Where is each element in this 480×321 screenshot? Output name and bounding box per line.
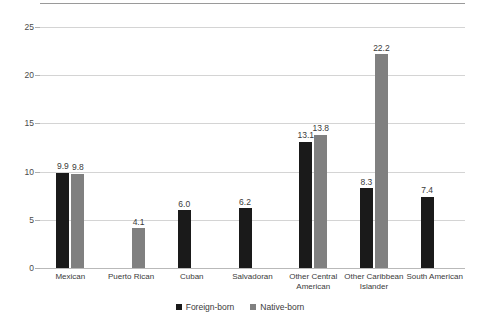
category-label: Mexican: [40, 272, 101, 282]
y-axis-tick-label: 10: [4, 168, 34, 177]
legend-label: Foreign-born: [186, 303, 235, 312]
bar-value-label: 7.4: [414, 186, 440, 195]
bars-layer: 9.99.84.16.06.213.113.88.322.27.4: [40, 27, 465, 268]
chart-legend: Foreign-bornNative-born: [0, 303, 480, 312]
legend-label: Native-born: [260, 303, 304, 312]
bar-group: 4.1: [117, 27, 145, 268]
bar-value-label: 6.0: [171, 200, 197, 209]
category-label: Other Caribbean Islander: [344, 272, 405, 292]
bar-value-label: 9.8: [65, 163, 91, 172]
category-label: Cuban: [161, 272, 222, 282]
bar-foreign-born[interactable]: [239, 208, 252, 268]
y-axis-tick-mark: [35, 268, 40, 269]
y-axis-tick-label: 20: [4, 71, 34, 80]
bar-foreign-born[interactable]: [360, 188, 373, 268]
category-label: South American: [404, 272, 465, 282]
category-label: Puerto Rican: [101, 272, 162, 282]
y-axis-tick-label: 25: [4, 23, 34, 32]
bar-native-born[interactable]: [375, 54, 388, 268]
bar-group: 8.322.2: [360, 27, 388, 268]
legend-swatch-icon: [176, 304, 182, 310]
bar-foreign-born[interactable]: [178, 210, 191, 268]
category-label: Other Central American: [283, 272, 344, 292]
bar-native-born[interactable]: [71, 174, 84, 268]
legend-item[interactable]: Native-born: [250, 303, 304, 312]
y-axis-tick-label: 5: [4, 216, 34, 225]
legend-item[interactable]: Foreign-born: [176, 303, 235, 312]
axis-baseline: [40, 268, 465, 269]
y-axis-tick-label: 15: [4, 119, 34, 128]
bar-native-born[interactable]: [314, 135, 327, 268]
bar-group: 6.0: [178, 27, 206, 268]
bar-native-born[interactable]: [132, 228, 145, 268]
bar-value-label: 22.2: [368, 44, 394, 53]
bar-value-label: 13.8: [308, 124, 334, 133]
bar-group: 9.99.8: [56, 27, 84, 268]
legend-swatch-icon: [250, 304, 256, 310]
bar-group: 7.4: [421, 27, 449, 268]
bar-foreign-born[interactable]: [421, 197, 434, 268]
category-label: Salvadoran: [222, 272, 283, 282]
bar-value-label: 4.1: [126, 218, 152, 227]
bar-group: 6.2: [239, 27, 267, 268]
bar-foreign-born[interactable]: [299, 142, 312, 268]
chart-top-border: [40, 3, 465, 4]
y-axis-tick-label: 0: [4, 264, 34, 273]
bar-foreign-born[interactable]: [56, 173, 69, 268]
x-axis-category-labels: MexicanPuerto RicanCubanSalvadoranOther …: [40, 272, 465, 302]
bar-group: 13.113.8: [299, 27, 327, 268]
bar-value-label: 6.2: [232, 198, 258, 207]
bar-chart: 0510152025 9.99.84.16.06.213.113.88.322.…: [0, 0, 480, 321]
